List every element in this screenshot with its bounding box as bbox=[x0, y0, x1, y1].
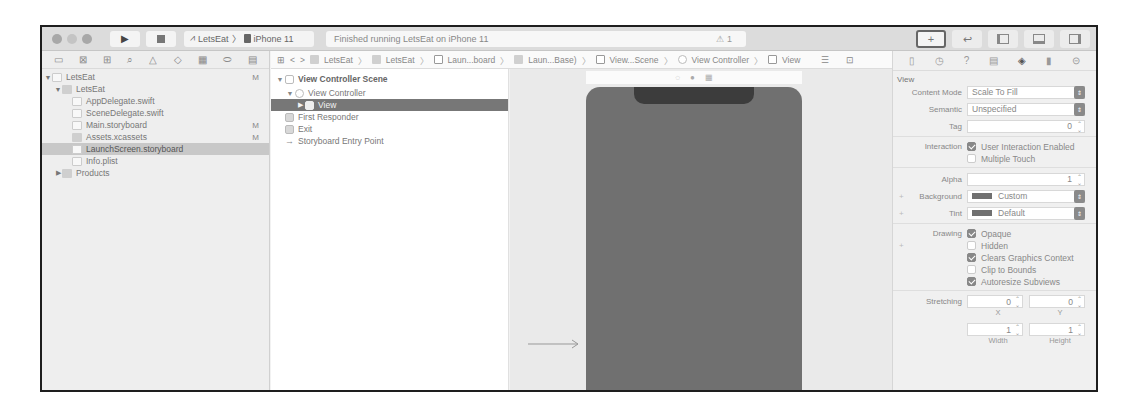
stop-button[interactable] bbox=[146, 31, 176, 47]
add-variation-icon[interactable]: + bbox=[899, 209, 904, 218]
hidden-checkbox[interactable] bbox=[967, 241, 976, 250]
breadcrumb-item[interactable]: Laun...board bbox=[448, 55, 496, 65]
disclosure-triangle-icon[interactable]: ▼ bbox=[285, 90, 295, 97]
stepper-icon[interactable]: ⌃⌄ bbox=[1076, 324, 1083, 336]
tree-item-group[interactable]: ▼ LetsEat bbox=[42, 83, 269, 95]
warning-indicator[interactable]: ⚠ 1 bbox=[716, 34, 732, 44]
alpha-field[interactable]: 1 ⌃⌄ bbox=[967, 173, 1085, 186]
history-icon[interactable]: ◷ bbox=[935, 55, 944, 66]
breadcrumb-item[interactable]: LetsEat bbox=[324, 55, 353, 65]
exit-icon[interactable]: ▦ bbox=[705, 73, 713, 82]
help-icon[interactable]: ? bbox=[964, 55, 970, 66]
app-target-icon: ⩘ bbox=[190, 33, 195, 44]
autoresize-checkbox[interactable] bbox=[967, 277, 976, 286]
library-button[interactable]: + bbox=[916, 30, 946, 48]
size-icon[interactable]: ▮ bbox=[1046, 55, 1052, 66]
disclosure-triangle-icon[interactable]: ▶ bbox=[295, 101, 305, 109]
stepper-icon[interactable]: ⌃⌄ bbox=[1076, 296, 1083, 308]
outline-item-entry-point[interactable]: → Storyboard Entry Point bbox=[271, 135, 508, 147]
source-control-icon[interactable]: ⊠ bbox=[79, 54, 87, 65]
user-interaction-checkbox[interactable] bbox=[967, 142, 976, 151]
disclosure-triangle-icon[interactable]: ▼ bbox=[54, 86, 62, 93]
storyboard-canvas[interactable]: ◌ ● ▦ bbox=[510, 69, 892, 390]
attributes-icon[interactable]: ◈ bbox=[1018, 55, 1026, 66]
outline-item-scene[interactable]: ▼ View Controller Scene bbox=[271, 73, 508, 85]
stretch-width-field[interactable]: 1 ⌃⌄ bbox=[967, 323, 1023, 336]
issue-icon[interactable]: △ bbox=[149, 54, 157, 65]
tree-item-label: LaunchScreen.storyboard bbox=[86, 144, 183, 154]
debug-area-toggle-button[interactable] bbox=[1024, 30, 1054, 48]
scheme-target: LetsEat bbox=[198, 34, 229, 44]
identity-icon[interactable]: ▤ bbox=[989, 55, 998, 66]
forward-button[interactable]: > bbox=[300, 55, 305, 65]
disclosure-triangle-icon[interactable]: ▼ bbox=[44, 74, 52, 81]
tree-item-file-selected[interactable]: LaunchScreen.storyboard bbox=[42, 143, 269, 155]
outline-item-view-selected[interactable]: ▶ View bbox=[271, 99, 508, 111]
scheme-selector[interactable]: ⩘ LetsEat 〉 iPhone 11 bbox=[184, 31, 314, 47]
outline-item-first-responder[interactable]: First Responder bbox=[271, 111, 508, 123]
content-mode-value: Scale To Fill bbox=[972, 87, 1018, 97]
stepper-icon[interactable]: ⌃⌄ bbox=[1014, 324, 1021, 336]
stretch-x-field[interactable]: 0 ⌃⌄ bbox=[967, 295, 1023, 308]
breakpoint-icon[interactable]: ⬭ bbox=[223, 54, 232, 66]
stepper-icon[interactable]: ⌃⌄ bbox=[1076, 121, 1083, 133]
stepper-icon[interactable]: ⌃⌄ bbox=[1014, 296, 1021, 308]
tag-field[interactable]: 0 ⌃⌄ bbox=[967, 120, 1085, 133]
minimize-window-button[interactable] bbox=[67, 34, 77, 44]
stepper-icon[interactable]: ⌃⌄ bbox=[1076, 174, 1083, 186]
semantic-popup[interactable]: Unspecified ⇕ bbox=[967, 103, 1085, 116]
opaque-checkbox[interactable] bbox=[967, 229, 976, 238]
test-icon[interactable]: ◇ bbox=[174, 54, 182, 65]
connections-icon[interactable]: ⊝ bbox=[1072, 55, 1080, 66]
run-button[interactable]: ▶ bbox=[110, 31, 140, 47]
content-mode-popup[interactable]: Scale To Fill ⇕ bbox=[967, 86, 1085, 99]
back-button[interactable]: < bbox=[290, 55, 295, 65]
outline-item-view-controller[interactable]: ▼ View Controller bbox=[271, 87, 508, 99]
tree-item-group[interactable]: ▶ Products bbox=[42, 167, 269, 179]
tree-item-file[interactable]: Assets.xcassets M bbox=[42, 131, 269, 143]
outline-item-exit[interactable]: Exit bbox=[271, 123, 508, 135]
code-review-button[interactable]: ↩ bbox=[952, 30, 982, 48]
first-responder-icon[interactable]: ◌ bbox=[675, 73, 680, 82]
clears-graphics-checkbox[interactable] bbox=[967, 253, 976, 262]
breadcrumb-item[interactable]: LetsEat bbox=[386, 55, 415, 65]
tree-item-project[interactable]: ▼ LetsEat M bbox=[42, 71, 269, 83]
attributes-inspector: ▯ ◷ ? ▤ ◈ ▮ ⊝ View Content Mode Scale To… bbox=[892, 51, 1096, 390]
add-editor-icon[interactable]: ⊡ bbox=[846, 55, 854, 65]
add-variation-icon[interactable]: + bbox=[899, 192, 904, 201]
view-controller-icon[interactable]: ● bbox=[690, 73, 695, 82]
breadcrumb-item[interactable]: View...Scene bbox=[610, 55, 659, 65]
disclosure-triangle-icon[interactable]: ▼ bbox=[275, 76, 285, 83]
file-icon[interactable]: ▯ bbox=[909, 55, 915, 66]
tree-item-file[interactable]: AppDelegate.swift bbox=[42, 95, 269, 107]
navigator-toggle-button[interactable] bbox=[988, 30, 1018, 48]
clip-bounds-checkbox[interactable] bbox=[967, 265, 976, 274]
close-window-button[interactable] bbox=[52, 34, 62, 44]
breadcrumb-item[interactable]: View Controller bbox=[692, 55, 749, 65]
report-icon[interactable]: ▤ bbox=[248, 54, 257, 65]
entry-point-arrow-icon[interactable] bbox=[528, 339, 580, 349]
add-variation-icon[interactable]: + bbox=[899, 241, 904, 250]
stretch-height-field[interactable]: 1 ⌃⌄ bbox=[1029, 323, 1085, 336]
tree-item-file[interactable]: Main.storyboard M bbox=[42, 119, 269, 131]
find-icon[interactable]: ⌕ bbox=[127, 54, 133, 66]
inspector-toggle-button[interactable] bbox=[1060, 30, 1090, 48]
related-items-icon[interactable]: ⊞ bbox=[277, 55, 285, 65]
breadcrumb-item[interactable]: Laun...Base) bbox=[528, 55, 576, 65]
iphone-device-frame[interactable] bbox=[586, 87, 802, 392]
disclosure-triangle-icon[interactable]: ▶ bbox=[54, 169, 62, 177]
stretch-y-field[interactable]: 0 ⌃⌄ bbox=[1029, 295, 1085, 308]
background-color-popup[interactable]: Custom ⇕ bbox=[967, 190, 1085, 203]
tint-color-popup[interactable]: Default ⇕ bbox=[967, 207, 1085, 220]
tree-item-file[interactable]: Info.plist bbox=[42, 155, 269, 167]
folder-icon bbox=[62, 169, 72, 178]
tree-item-label: Info.plist bbox=[86, 156, 118, 166]
multiple-touch-checkbox[interactable] bbox=[967, 154, 976, 163]
folder-icon[interactable]: ▭ bbox=[54, 54, 63, 65]
debug-icon[interactable]: ▦ bbox=[198, 54, 207, 65]
symbol-icon[interactable]: ⊞ bbox=[103, 54, 111, 65]
zoom-window-button[interactable] bbox=[82, 34, 92, 44]
breadcrumb-item[interactable]: View bbox=[782, 55, 800, 65]
adjust-editor-options-icon[interactable]: ☰ bbox=[821, 55, 829, 65]
tree-item-file[interactable]: SceneDelegate.swift bbox=[42, 107, 269, 119]
